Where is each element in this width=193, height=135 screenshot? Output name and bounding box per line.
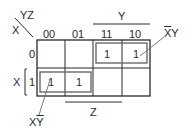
column-variables-label: YZ: [20, 10, 34, 21]
column-header-10: 10: [129, 29, 141, 40]
row-variable-label: X: [12, 25, 19, 36]
term-y: Y: [171, 27, 178, 39]
x-bracket-label: X: [13, 77, 20, 88]
column-header-00: 00: [43, 29, 55, 40]
cell-r1-c00: 1: [37, 77, 65, 88]
row-header-0: 0: [29, 49, 35, 60]
group-term-x-ybar: XY: [29, 117, 44, 128]
term-y-complement: Y: [36, 116, 43, 128]
cell-r0-c10: 1: [122, 49, 150, 60]
group-term-xbar-y: XY: [164, 28, 179, 39]
y-bracket-label: Y: [118, 11, 125, 22]
z-bracket-label: Z: [90, 107, 97, 118]
cell-r1-c01: 1: [65, 77, 93, 88]
row-header-1: 1: [29, 77, 35, 88]
cell-r0-c11: 1: [93, 49, 121, 60]
column-header-01: 01: [72, 29, 84, 40]
column-header-11: 11: [101, 29, 112, 40]
x-bracket: [25, 69, 27, 95]
